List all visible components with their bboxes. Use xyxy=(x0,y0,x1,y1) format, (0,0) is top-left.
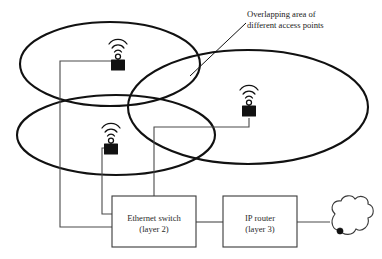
network-cloud-node[interactable] xyxy=(332,196,373,235)
wifi-arc-middle-icon xyxy=(105,129,117,132)
overlap-annotation-line1: Overlapping area of xyxy=(247,9,316,19)
access-point-bottom-left[interactable] xyxy=(102,123,120,154)
diagram-canvas: Ethernet switch (layer 2) IP router (lay… xyxy=(0,0,382,259)
overlap-annotation-line2: different access points xyxy=(247,20,324,30)
wifi-arc-inner-icon xyxy=(115,50,122,52)
wifi-arc-outer-icon xyxy=(109,39,127,44)
network-diagram: Ethernet switch (layer 2) IP router (lay… xyxy=(0,0,382,259)
ethernet-switch-label-line2: (layer 2) xyxy=(139,224,168,234)
link-ap-right-to-switch xyxy=(154,118,249,196)
access-point-body-icon xyxy=(111,60,125,71)
cloud-attachment-dot-icon xyxy=(337,228,343,234)
ip-router-node[interactable]: IP router (layer 3) xyxy=(223,196,297,247)
wifi-arc-middle-icon xyxy=(243,91,255,94)
access-point-body-icon xyxy=(104,144,118,155)
link-ap-bottom-left-to-switch xyxy=(102,148,112,214)
coverage-ellipse-bottom-left xyxy=(17,95,215,175)
ip-router-label-line2: (layer 3) xyxy=(245,224,274,234)
access-point-top-left[interactable] xyxy=(109,39,127,70)
wireless-access-point-icon xyxy=(109,39,127,70)
ethernet-switch-label-line1: Ethernet switch xyxy=(127,213,181,223)
access-point-body-icon xyxy=(242,106,256,117)
antenna-ring-icon xyxy=(247,100,252,105)
ip-router-label-line1: IP router xyxy=(245,213,275,223)
wireless-access-point-icon xyxy=(240,85,258,116)
access-point-right[interactable] xyxy=(240,85,258,116)
overlap-annotation: Overlapping area of different access poi… xyxy=(247,9,324,30)
ethernet-switch-node[interactable]: Ethernet switch (layer 2) xyxy=(112,196,196,247)
wifi-arc-inner-icon xyxy=(246,96,253,98)
wifi-arc-outer-icon xyxy=(240,85,258,90)
wifi-arc-outer-icon xyxy=(102,123,120,128)
wireless-access-point-icon xyxy=(102,123,120,154)
antenna-ring-icon xyxy=(109,138,114,143)
wifi-arc-middle-icon xyxy=(112,45,124,48)
wifi-arc-inner-icon xyxy=(108,134,115,136)
coverage-cells-group xyxy=(17,22,368,175)
antenna-ring-icon xyxy=(116,54,121,59)
coverage-ellipse-top-left xyxy=(20,22,200,106)
